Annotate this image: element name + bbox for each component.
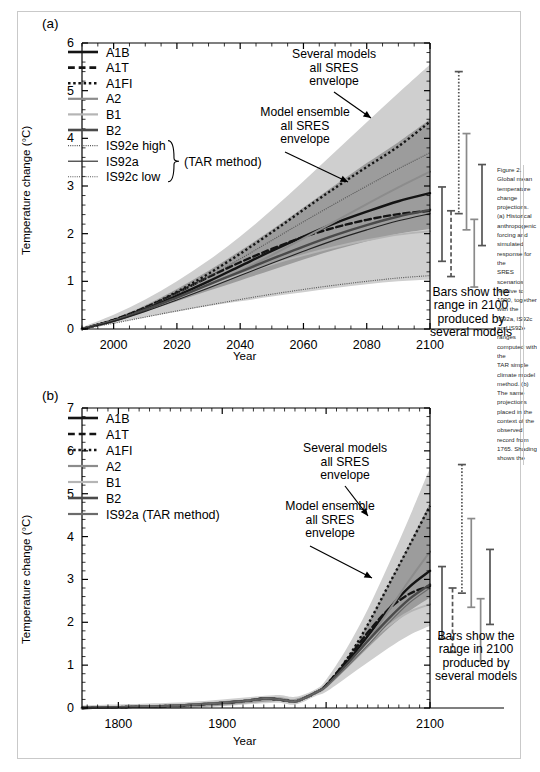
legend-label-A1T: A1T — [106, 61, 129, 75]
bars-note-line: produced by — [437, 312, 505, 326]
y-tick-label: 2 — [67, 615, 74, 629]
panel-b-y-axis-title: Temperature change (°C) — [20, 515, 32, 644]
panel-b-x-axis-title: Year — [233, 735, 256, 747]
legend-label-A1T: A1T — [106, 428, 129, 442]
bars-note-line: several models — [435, 669, 517, 683]
panel-b-plot: 012345671800190020002100A1BA1TA1FIA2B1B2… — [0, 378, 540, 772]
x-tick-label: 2100 — [416, 717, 444, 731]
legend-label-A1B: A1B — [106, 46, 130, 60]
legend-label-IS92c low: IS92c low — [106, 170, 161, 184]
legend-label-B1: B1 — [106, 108, 121, 122]
envelope-band-0 — [82, 468, 430, 709]
caption-line: anthropogenic forcing and — [497, 221, 537, 240]
caption-line: simulated response for the — [497, 239, 537, 267]
panel-b: 012345671800190020002100A1BA1TA1FIA2B1B2… — [0, 378, 540, 772]
legend-label-B2: B2 — [106, 124, 121, 138]
y-tick-label: 4 — [67, 131, 74, 145]
caption-line: shows the envelope of all — [497, 453, 537, 465]
y-tick-label: 1 — [67, 658, 74, 672]
legend-label-A1FI: A1FI — [106, 444, 132, 458]
legend-label-B1: B1 — [106, 476, 121, 490]
y-tick-label: 7 — [67, 401, 74, 415]
x-tick-label: 2080 — [353, 338, 381, 352]
anno-model-ensemble-line: envelope — [305, 526, 355, 540]
y-tick-label: 0 — [67, 322, 74, 336]
anno-model-ensemble-line: all SRES — [306, 513, 355, 527]
tar-brace — [168, 141, 179, 182]
caption-line: 1990, together with the — [497, 295, 537, 314]
caption-line: ranges computed with the — [497, 332, 537, 360]
legend-label-A1FI: A1FI — [106, 77, 132, 91]
anno-several-models-line: envelope — [309, 74, 359, 88]
y-tick-label: 0 — [67, 701, 74, 715]
anno-several-models-line: envelope — [320, 468, 370, 482]
y-tick-label: 6 — [67, 36, 74, 50]
y-tick-label: 1 — [67, 274, 74, 288]
anno-several-models-line: all SRES — [310, 61, 359, 75]
panel-b-tag: (b) — [42, 388, 59, 403]
y-tick-label: 3 — [67, 572, 74, 586]
anno-several-models-arrowhead — [363, 111, 371, 118]
x-tick-label: 2020 — [163, 338, 191, 352]
legend-label-B2: B2 — [106, 492, 121, 506]
legend-label-A2: A2 — [106, 92, 121, 106]
panel-a-x-axis-title: Year — [233, 350, 256, 362]
envelope-band-1 — [82, 503, 430, 708]
x-tick-label: 1900 — [208, 717, 236, 731]
x-tick-label: 2060 — [290, 338, 318, 352]
bars-note-line: Bars show the — [437, 629, 514, 643]
x-tick-label: 2000 — [312, 717, 340, 731]
x-tick-label: 2100 — [416, 338, 444, 352]
legend-label-IS92e high: IS92e high — [106, 139, 166, 153]
legend-label-A1B: A1B — [106, 412, 130, 426]
side-caption: Figure 2. Global meantemperature changep… — [497, 165, 537, 465]
caption-line: context of the observed — [497, 416, 537, 435]
anno-several-models-line: Several models — [292, 47, 376, 61]
bars-note-line: produced by — [442, 656, 510, 670]
panel-a-tag: (a) — [42, 16, 59, 31]
side-caption-body: Figure 2. Global meantemperature changep… — [497, 165, 537, 465]
y-tick-label: 3 — [67, 179, 74, 193]
caption-line: IS92a, IS92c and IS92e — [497, 314, 537, 333]
panel-a-plot: 0123456200020202040206020802100A1BA1TA1F… — [0, 0, 540, 380]
caption-line: temperature change — [497, 184, 537, 203]
caption-line: projections. (a) Historical — [497, 202, 537, 221]
caption-line: record from 1765. Shading — [497, 435, 537, 454]
caption-line: SRES scenarios relative to — [497, 267, 537, 295]
anno-model-ensemble-line: all SRES — [281, 119, 330, 133]
legend-label-A2: A2 — [106, 460, 121, 474]
caption-line: Figure 2. Global mean — [497, 165, 537, 184]
anno-several-models-line: Several models — [303, 441, 387, 455]
caption-line: TAR simple climate model — [497, 360, 537, 379]
anno-model-ensemble-line: envelope — [280, 132, 330, 146]
panel-a: 0123456200020202040206020802100A1BA1TA1F… — [0, 0, 540, 380]
caption-line: projections placed in the — [497, 397, 537, 416]
caption-line: method. (b) The same — [497, 379, 537, 398]
anno-several-models-line: all SRES — [321, 455, 370, 469]
anno-model-ensemble-line: Model ensemble — [285, 499, 375, 513]
anno-model-ensemble-line: Model ensemble — [260, 105, 350, 119]
panel-a-y-axis-title: Temperature change (°C) — [20, 126, 32, 255]
y-tick-label: 2 — [67, 227, 74, 241]
bars-note-line: range in 2100 — [439, 642, 514, 656]
legend-label-IS92a (TAR method): IS92a (TAR method) — [106, 508, 220, 522]
anno-model-ensemble-arrow — [310, 546, 372, 578]
tar-method-label: (TAR method) — [184, 155, 262, 169]
y-tick-label: 4 — [67, 530, 74, 544]
caption-divider — [523, 165, 524, 465]
legend-label-IS92a: IS92a — [106, 155, 139, 169]
x-tick-label: 2000 — [100, 338, 128, 352]
y-tick-label: 5 — [67, 84, 74, 98]
figure-root: 0123456200020202040206020802100A1BA1TA1F… — [0, 0, 540, 772]
x-tick-label: 1800 — [104, 717, 132, 731]
